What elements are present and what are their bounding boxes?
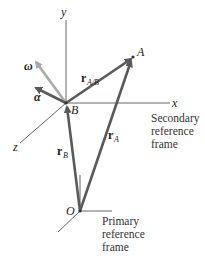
z-axis-label: z (12, 140, 18, 154)
diagram-canvas: y x z A B O ω α r A/B r A r B Secondary … (0, 0, 205, 264)
primary-caption-line-1: Primary (102, 215, 139, 228)
r-A-label: r A (108, 128, 119, 144)
z-axis (20, 103, 66, 143)
point-O-label: O (66, 204, 75, 218)
point-B-label: B (71, 103, 79, 117)
secondary-caption-line-2: reference (151, 125, 194, 137)
secondary-caption-line-3: frame (151, 138, 178, 150)
x-axis-label: x (171, 96, 178, 110)
r-AB-sub: A/B (86, 78, 99, 87)
r-A-sub: A (113, 135, 119, 144)
secondary-frame-caption: Secondary reference frame (151, 112, 200, 150)
relative-motion-diagram: y x z A B O ω α r A/B r A r B Secondary … (0, 0, 205, 264)
primary-caption-line-2: reference (102, 228, 145, 240)
point-O-dot (78, 209, 81, 212)
primary-caption-line-3: frame (102, 241, 129, 253)
point-A-dot (131, 55, 134, 58)
point-A-label: A (136, 45, 145, 59)
alpha-label: α (34, 90, 41, 104)
r-B-label: r B (57, 144, 68, 160)
secondary-caption-line-1: Secondary (151, 112, 200, 125)
primary-frame-caption: Primary reference frame (102, 215, 145, 253)
r-B-vector (67, 107, 80, 211)
point-B-dot (64, 101, 67, 104)
omega-label: ω (24, 59, 33, 73)
r-B-sub: B (63, 151, 68, 160)
y-axis-label: y (60, 5, 67, 19)
r-AB-label: r A/B (81, 71, 99, 87)
